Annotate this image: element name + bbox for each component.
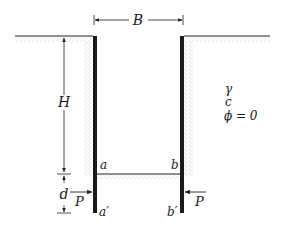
unit-weight-label: γ bbox=[225, 82, 233, 96]
left-wall bbox=[93, 36, 97, 213]
width-label: B bbox=[132, 12, 143, 28]
braced-cut-diagram: B H d P P a b a′ b′ γ c ϕ = 0 bbox=[0, 0, 287, 226]
friction-angle-label: ϕ = 0 bbox=[224, 109, 258, 123]
force-right: P bbox=[185, 192, 206, 209]
force-left-label: P bbox=[74, 194, 84, 209]
force-left: P bbox=[70, 192, 92, 209]
left-ground bbox=[15, 36, 93, 176]
width-dimension: B bbox=[94, 12, 183, 28]
right-wall bbox=[180, 36, 184, 213]
point-b-label: b bbox=[171, 158, 179, 172]
excavation-bottom bbox=[97, 174, 180, 179]
depth-dimension: d bbox=[57, 176, 71, 213]
point-b-prime-label: b′ bbox=[167, 205, 178, 219]
height-label: H bbox=[57, 94, 71, 110]
point-a-label: a bbox=[100, 158, 107, 172]
point-a-prime-label: a′ bbox=[99, 205, 109, 219]
force-right-label: P bbox=[194, 194, 204, 209]
depth-label: d bbox=[60, 186, 69, 202]
cohesion-label: c bbox=[225, 95, 232, 109]
soil-properties: γ c ϕ = 0 bbox=[224, 82, 258, 123]
height-dimension: H bbox=[57, 38, 71, 174]
